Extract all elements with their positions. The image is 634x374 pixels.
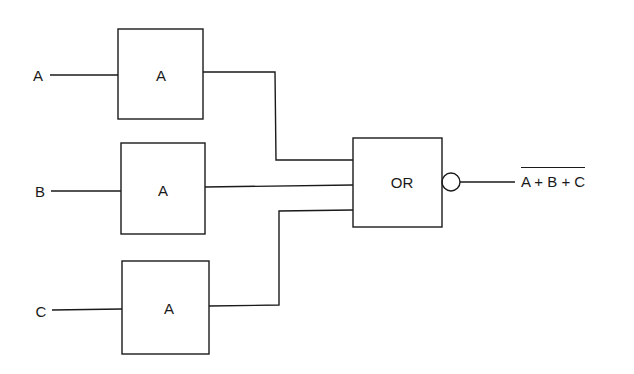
gate-2-output-wire bbox=[205, 185, 353, 187]
input-c-wire bbox=[52, 309, 122, 310]
output-expression: A + B + C bbox=[521, 167, 585, 189]
gate-1-label: A bbox=[156, 68, 166, 83]
input-label-c: C bbox=[36, 304, 47, 319]
gate-1-output-wire bbox=[203, 72, 353, 160]
input-label-a: A bbox=[33, 68, 43, 83]
gate-2-label: A bbox=[158, 183, 168, 198]
gate-3-output-wire bbox=[209, 210, 353, 306]
inversion-bubble-icon bbox=[442, 173, 460, 191]
or-gate-label: OR bbox=[391, 175, 414, 190]
input-label-b: B bbox=[35, 184, 45, 199]
gate-3-label: A bbox=[164, 301, 174, 316]
